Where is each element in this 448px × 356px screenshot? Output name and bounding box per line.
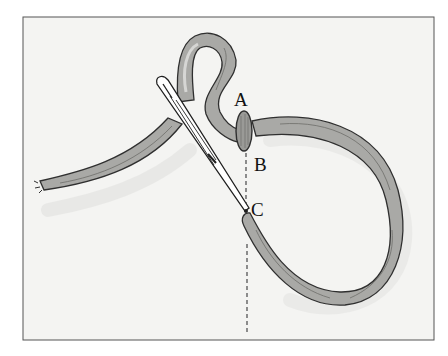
label-a: A (234, 89, 248, 110)
label-c: C (251, 199, 264, 220)
diagram-canvas: A B C (0, 0, 448, 356)
thread-knot-illustration: A B C (0, 0, 448, 356)
label-b: B (254, 154, 267, 175)
knot (236, 111, 252, 151)
